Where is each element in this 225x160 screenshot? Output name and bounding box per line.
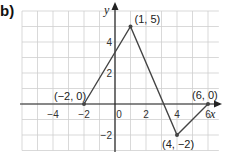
x-tick-label: −2 bbox=[78, 109, 90, 120]
coordinate-graph: x y −4−2024642−2 (−2, 0)(1, 5)(4, −2)(6,… bbox=[0, 0, 225, 160]
x-tick-label: −4 bbox=[47, 109, 59, 120]
y-axis-arrow-icon bbox=[112, 2, 119, 10]
data-point bbox=[175, 133, 179, 137]
data-point bbox=[206, 102, 210, 106]
y-tick-label: −2 bbox=[101, 130, 113, 141]
y-tick-label: 2 bbox=[106, 68, 112, 79]
point-label: (4, −2) bbox=[162, 138, 194, 150]
x-tick-label: 4 bbox=[174, 109, 180, 120]
point-label: (−2, 0) bbox=[54, 90, 86, 102]
data-point bbox=[82, 102, 86, 106]
data-point bbox=[129, 25, 133, 29]
point-labels: (−2, 0)(1, 5)(4, −2)(6, 0) bbox=[54, 13, 218, 151]
grid bbox=[22, 11, 219, 151]
y-tick-label: 4 bbox=[106, 37, 112, 48]
x-tick-label: 0 bbox=[116, 109, 122, 120]
x-tick-label: 2 bbox=[143, 109, 149, 120]
point-label: (6, 0) bbox=[192, 89, 218, 101]
point-label: (1, 5) bbox=[135, 13, 161, 25]
y-axis-label: y bbox=[103, 3, 110, 17]
x-tick-label: 6 bbox=[205, 109, 211, 120]
